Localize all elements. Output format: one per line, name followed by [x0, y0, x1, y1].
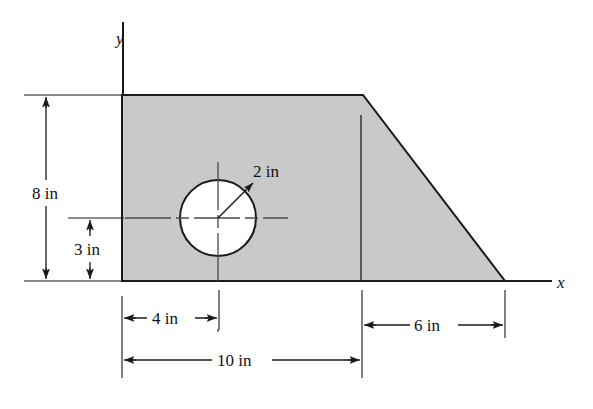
dimension-label-4in: 4 in [152, 310, 178, 327]
dimension-label-3in: 3 in [74, 241, 100, 258]
engineering-diagram [0, 0, 593, 409]
dimension-label-2in: 2 in [253, 163, 279, 180]
figure-canvas: 8 in 3 in 4 in 6 in 10 in 2 in y x [0, 0, 593, 409]
x-axis-label: x [557, 274, 565, 291]
dimension-label-8in: 8 in [32, 185, 58, 202]
dimension-label-10in: 10 in [217, 352, 251, 369]
plate-shape [122, 95, 505, 281]
dimension-label-6in: 6 in [414, 317, 440, 334]
plate-fill [122, 95, 505, 281]
radius-leader-line [218, 183, 253, 218]
y-axis-label: y [116, 30, 124, 47]
